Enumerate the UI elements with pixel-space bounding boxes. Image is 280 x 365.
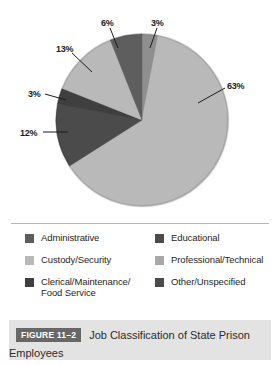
pie-data-label: 13% <box>56 44 73 54</box>
legend-item-label: Professional/Technical <box>171 254 263 265</box>
figure-page: 6%3%13%3%12%63% Administrative Custody/S… <box>0 0 280 365</box>
legend-item-administrative[interactable]: Administrative <box>25 232 150 243</box>
legend-item-label: Other/Unspecified <box>171 276 245 287</box>
legend-item-label: Custody/Security <box>41 254 111 265</box>
legend-swatch-icon <box>155 278 164 287</box>
legend-item-professional-technical[interactable]: Professional/Technical <box>155 254 280 265</box>
legend-item-label: Clerical/Maintenance/ Food Service <box>41 276 130 298</box>
figure-number-badge: FIGURE 11–2 <box>16 328 81 342</box>
legend-swatch-icon <box>155 256 164 265</box>
legend-item-other-unspecified[interactable]: Other/Unspecified <box>155 276 280 287</box>
pie-data-label: 3% <box>28 89 41 99</box>
legend-item-educational[interactable]: Educational <box>155 232 280 243</box>
legend-divider <box>11 223 269 224</box>
pie-chart: 6%3%13%3%12%63% <box>0 0 280 218</box>
pie-data-label: 63% <box>227 81 244 91</box>
pie-data-label: 12% <box>20 128 37 138</box>
legend-column-left: Administrative Custody/Security Clerical… <box>25 232 150 309</box>
legend-swatch-icon <box>25 278 34 287</box>
figure-caption: FIGURE 11–2Job Classification of State P… <box>9 322 271 361</box>
legend-column-right: Educational Professional/Technical Other… <box>155 232 280 298</box>
legend-item-clerical-maintenance-food-service[interactable]: Clerical/Maintenance/ Food Service <box>25 276 150 298</box>
pie-slices <box>54 32 230 208</box>
legend-item-custody-security[interactable]: Custody/Security <box>25 254 150 265</box>
legend-item-label: Administrative <box>41 232 99 243</box>
pie-data-label: 3% <box>151 18 164 28</box>
legend-swatch-icon <box>155 234 164 243</box>
pie-data-label: 6% <box>101 18 114 28</box>
legend-item-label: Educational <box>171 232 220 243</box>
legend-swatch-icon <box>25 256 34 265</box>
legend-swatch-icon <box>25 234 34 243</box>
